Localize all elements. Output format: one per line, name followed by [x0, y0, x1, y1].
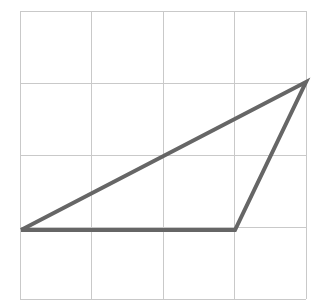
triangle-diagram: [0, 0, 322, 301]
figure-container: [0, 0, 322, 301]
